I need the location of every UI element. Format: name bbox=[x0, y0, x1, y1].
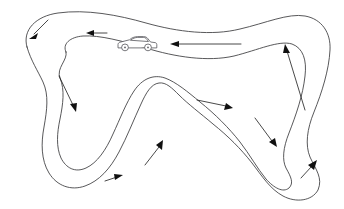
arrow-top-straight-left bbox=[86, 30, 107, 36]
arrow-head-icon bbox=[29, 33, 38, 39]
arrow-shaft bbox=[145, 147, 159, 165]
arrow-shaft bbox=[255, 118, 272, 141]
arrow-head-icon bbox=[224, 103, 233, 110]
arrow-right-uphill bbox=[283, 44, 305, 110]
arrow-head-icon bbox=[70, 103, 77, 112]
race-car-marker bbox=[118, 37, 157, 51]
track-canvas: Race Track Circuit Layout bbox=[0, 0, 344, 209]
arrow-head-icon bbox=[269, 138, 277, 147]
arrow-final-hairpin bbox=[301, 160, 317, 178]
arrow-left-descent bbox=[59, 76, 77, 112]
arrow-right-descent bbox=[255, 118, 277, 147]
car-front-hub bbox=[124, 47, 126, 49]
car-rear-hub bbox=[147, 47, 149, 49]
arrow-shaft bbox=[59, 76, 73, 105]
arrow-head-icon bbox=[86, 30, 94, 36]
arrow-center-climb bbox=[145, 140, 163, 165]
arrow-head-icon bbox=[156, 140, 163, 150]
arrow-shaft bbox=[34, 20, 48, 34]
arrow-top-straight-long bbox=[170, 41, 241, 47]
arrow-head-icon bbox=[283, 44, 290, 53]
race-track-diagram: Race Track Circuit Layout bbox=[0, 0, 344, 209]
arrow-center-hump bbox=[197, 100, 233, 110]
track-inner-edge bbox=[58, 36, 306, 190]
arrow-top-left-hairpin bbox=[29, 20, 48, 39]
arrow-shaft bbox=[301, 166, 312, 178]
arrow-bottom-valley bbox=[105, 174, 123, 181]
arrow-head-icon bbox=[114, 174, 123, 180]
arrow-shaft bbox=[287, 51, 305, 110]
arrow-head-icon bbox=[170, 41, 179, 47]
